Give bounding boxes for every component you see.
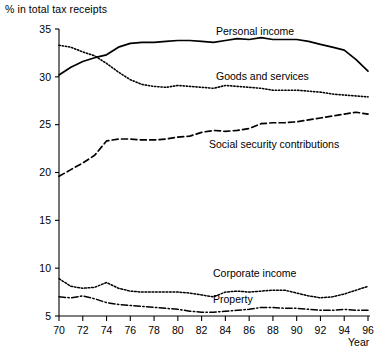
x-tick-label: 96	[362, 324, 374, 336]
x-axis-ticks: 7072747678808284868890929496	[53, 316, 374, 336]
x-tick-label: 86	[243, 324, 255, 336]
x-tick-label: 78	[148, 324, 160, 336]
x-tick-label: 82	[196, 324, 208, 336]
series-label-personal-income: Personal income	[216, 25, 294, 37]
x-tick-label: 92	[315, 324, 327, 336]
y-tick-label: 15	[39, 214, 51, 226]
series-line-personal-income	[59, 38, 368, 75]
y-axis-ticks: 5101520253035	[39, 23, 59, 322]
x-tick-label: 76	[124, 324, 136, 336]
x-tick-label: 80	[172, 324, 184, 336]
y-tick-label: 10	[39, 262, 51, 274]
x-tick-label: 84	[220, 324, 232, 336]
y-tick-label: 25	[39, 118, 51, 130]
y-tick-label: 5	[45, 310, 51, 322]
series-label-corporate-income: Corporate income	[213, 267, 297, 279]
chart-container: % in total tax receipts Year 51015202530…	[0, 0, 390, 355]
series-label-property: Property	[213, 293, 253, 305]
x-tick-label: 72	[77, 324, 89, 336]
series-label-goods-and-services: Goods and services	[216, 70, 309, 82]
series-line-goods-and-services	[59, 45, 368, 97]
x-tick-label: 88	[267, 324, 279, 336]
series-annotations-group: Personal incomeGoods and servicesSocial …	[209, 25, 339, 305]
y-tick-label: 30	[39, 71, 51, 83]
x-tick-label: 74	[101, 324, 113, 336]
x-tick-label: 70	[53, 324, 65, 336]
x-tick-label: 90	[291, 324, 303, 336]
series-label-social-security-contributions: Social security contributions	[209, 138, 339, 150]
line-chart-plot: 5101520253035 70727476788082848688909294…	[0, 0, 390, 355]
y-tick-label: 20	[39, 166, 51, 178]
y-tick-label: 35	[39, 23, 51, 35]
x-tick-label: 94	[338, 324, 350, 336]
